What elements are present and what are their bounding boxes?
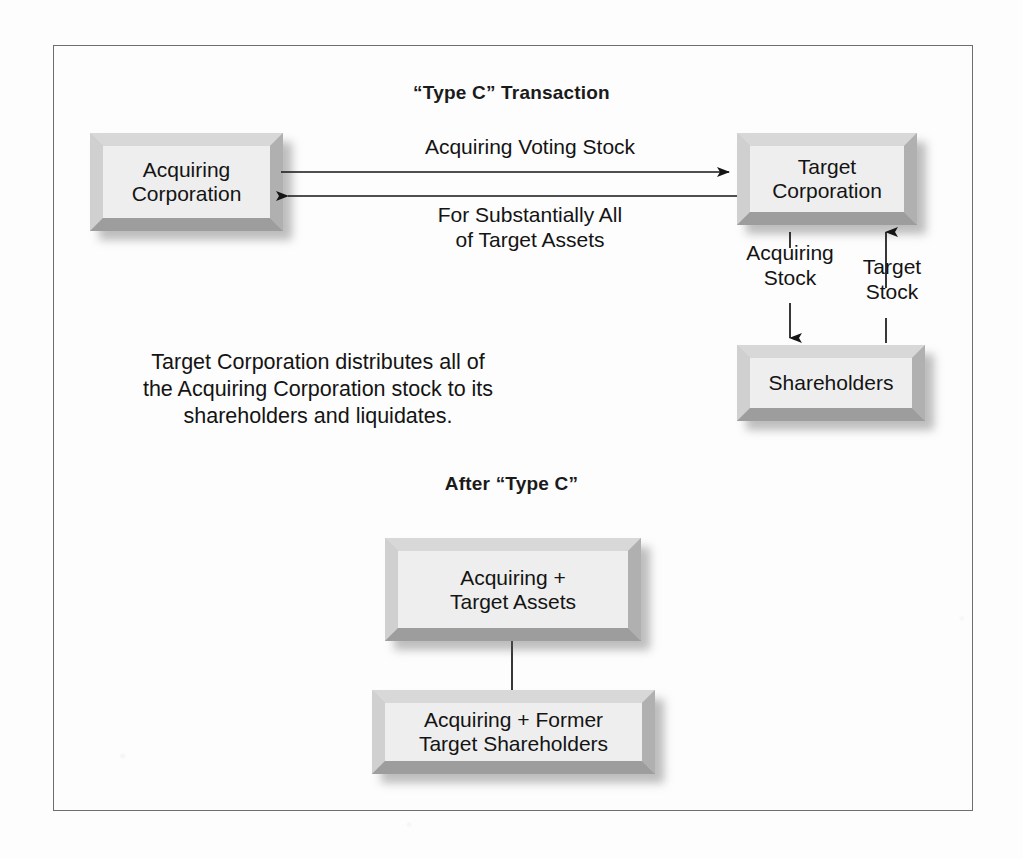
label-for-substantially-all-of-target-assets: For Substantially All of Target Assets [380,203,680,253]
label-target-stock: Target Stock [846,255,938,305]
box-inner: Acquiring + Former Target Shareholders [385,703,642,761]
box-acquiring-plus-target-assets[interactable]: Acquiring + Target Assets [385,538,641,641]
label-acquiring-stock: Acquiring Stock [715,241,865,291]
label-acquiring-voting-stock: Acquiring Voting Stock [380,135,680,160]
box-inner: Shareholders [750,358,912,408]
box-inner: Acquiring Corporation [103,146,270,218]
box-label-shareholders: Shareholders [769,371,894,395]
box-label-target-corporation: Target Corporation [772,155,882,203]
section-title-type-c: “Type C” Transaction [0,82,1023,104]
box-label-acquiring-corporation: Acquiring Corporation [132,158,242,206]
box-inner: Target Corporation [750,146,904,212]
box-shareholders[interactable]: Shareholders [737,345,925,421]
box-acquiring-plus-former-target-shareholders[interactable]: Acquiring + Former Target Shareholders [372,690,655,774]
box-label-acquiring-plus-former-target-shareholders: Acquiring + Former Target Shareholders [419,708,608,756]
box-target-corporation[interactable]: Target Corporation [737,133,917,225]
box-label-acquiring-plus-target-assets: Acquiring + Target Assets [450,566,576,614]
section-title-after-type-c: After “Type C” [0,473,1023,495]
diagram-page: “Type C” Transaction Acquiring Corporati… [0,0,1023,859]
box-inner: Acquiring + Target Assets [398,551,628,628]
box-acquiring-corporation[interactable]: Acquiring Corporation [90,133,283,231]
note-target-corporation-distributes: Target Corporation distributes all of th… [98,349,538,430]
